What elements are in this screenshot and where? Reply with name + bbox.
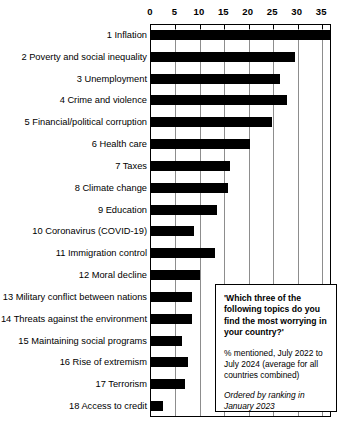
chart-row: 5 Financial/political corruption: [0, 111, 345, 133]
x-tick-label: 30: [291, 6, 302, 18]
bar: [150, 74, 280, 84]
chart-row: 4 Crime and violence: [0, 90, 345, 112]
bar-chart: 05101520253035 1 Inflation2 Poverty and …: [0, 0, 345, 430]
chart-row: 2 Poverty and social inequality: [0, 46, 345, 68]
bar: [150, 270, 200, 280]
category-label: 14 Threats against the environment: [1, 313, 147, 324]
category-label: 17 Terrorism: [96, 379, 148, 390]
category-label: 8 Climate change: [75, 182, 147, 193]
category-label: 15 Maintaining social programs: [18, 335, 147, 346]
category-label: 7 Taxes: [115, 160, 147, 171]
x-tick-label: 20: [242, 6, 253, 18]
category-label: 1 Inflation: [107, 29, 147, 40]
bar: [150, 336, 182, 346]
chart-row: 12 Moral decline: [0, 264, 345, 286]
chart-row: 6 Health care: [0, 133, 345, 155]
annotation-ordering: Ordered by ranking in January 2023: [224, 390, 329, 412]
category-label: 16 Rise of extremism: [60, 357, 147, 368]
bar: [150, 205, 217, 215]
x-tick-label: 15: [218, 6, 229, 18]
annotation-question: 'Which three of the following topics do …: [224, 293, 329, 339]
category-label: 13 Military conflict between nations: [3, 291, 147, 302]
chart-row: 11 Immigration control: [0, 242, 345, 264]
category-label: 11 Immigration control: [56, 248, 147, 259]
x-tick-label: 5: [172, 6, 177, 18]
bar: [150, 292, 192, 302]
bar: [150, 357, 188, 367]
chart-row: 9 Education: [0, 199, 345, 221]
chart-row: 7 Taxes: [0, 155, 345, 177]
category-label: 3 Unemployment: [77, 73, 147, 84]
bar: [150, 139, 250, 149]
category-label: 18 Access to credit: [69, 401, 147, 412]
bar: [150, 52, 295, 62]
x-tick-label: 25: [267, 6, 278, 18]
chart-row: 3 Unemployment: [0, 68, 345, 90]
x-tick-label: 10: [193, 6, 204, 18]
category-label: 6 Health care: [92, 139, 147, 150]
bar: [150, 117, 272, 127]
chart-row: 8 Climate change: [0, 177, 345, 199]
bar: [150, 226, 194, 236]
bar: [150, 95, 287, 105]
category-label: 5 Financial/political corruption: [25, 117, 147, 128]
bar: [150, 161, 230, 171]
bar: [150, 379, 185, 389]
category-label: 2 Poverty and social inequality: [21, 51, 147, 62]
chart-row: 10 Coronavirus (COVID-19): [0, 221, 345, 243]
x-tick-label: 0: [147, 6, 152, 18]
bar: [150, 183, 228, 193]
x-axis-tick-labels: 05101520253035: [150, 6, 331, 22]
bar: [150, 30, 330, 40]
category-label: 9 Education: [98, 204, 147, 215]
bar: [150, 314, 192, 324]
bar: [150, 248, 215, 258]
x-tick-label: 35: [316, 6, 327, 18]
chart-row: 1 Inflation: [0, 24, 345, 46]
category-label: 12 Moral decline: [79, 270, 147, 281]
bar: [150, 401, 163, 411]
annotation-box: 'Which three of the following topics do …: [215, 284, 337, 412]
annotation-subtitle: % mentioned, July 2022 to July 2024 (ave…: [224, 348, 329, 382]
category-label: 4 Crime and violence: [60, 95, 147, 106]
category-label: 10 Coronavirus (COVID-19): [32, 226, 147, 237]
